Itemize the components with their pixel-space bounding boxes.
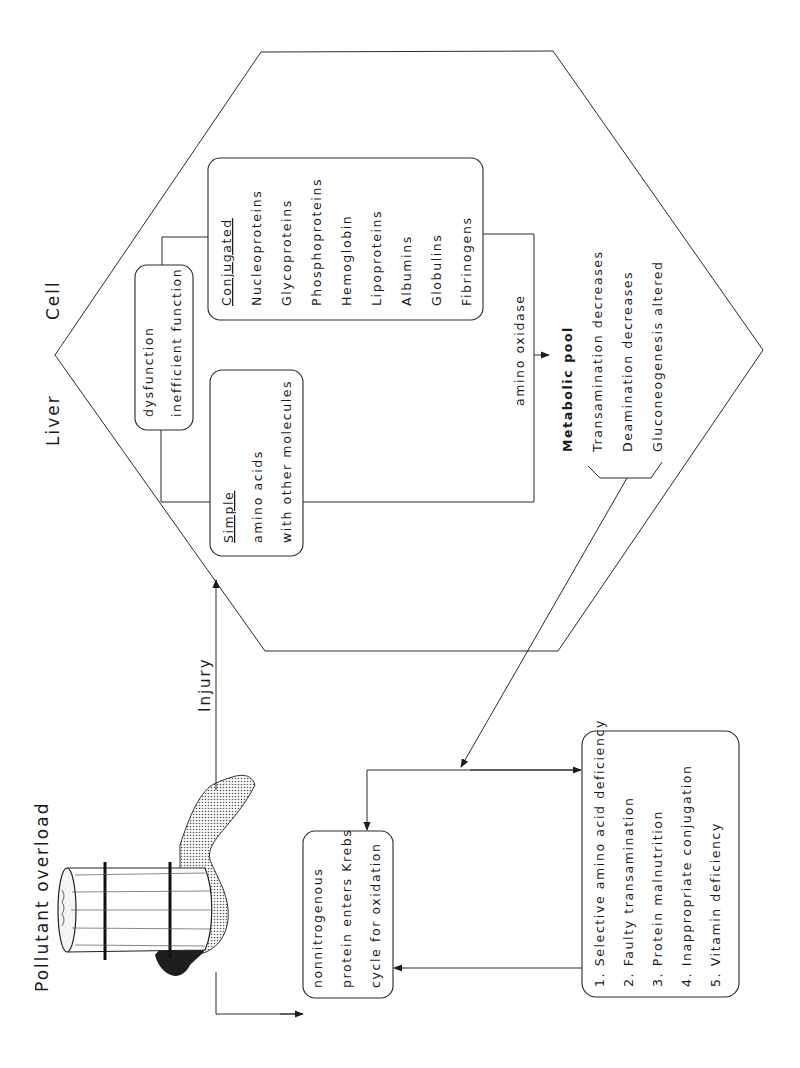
deficiency-item: 1. Selective amino acid deficiency [592,719,607,987]
metabolic-bracket [588,462,662,478]
metabolic-effect: Gluconeogenesis altered [650,260,665,452]
liver-label: Liver [43,394,63,446]
connector-dysfunction-simple [161,430,210,502]
conjugated-box: Conjugated Nucleoproteins Glycoproteins … [208,158,483,320]
conjugated-item: Hemoglobin [339,215,354,306]
deficiency-item: 2. Faulty transamination [621,796,636,987]
barrel-icon [58,775,255,976]
conjugated-item: Glycoproteins [279,199,294,306]
dysfunction-line-2: inefficient function [169,268,184,417]
conjugated-item: Fibrinogens [459,216,474,306]
conjugated-heading: Conjugated [219,218,234,306]
conjugated-item: Phosphoproteins [309,178,324,306]
krebs-box: nonnitrogenous protein enters Krebs cycl… [303,829,393,998]
pollutant-to-krebs-line [216,972,300,1014]
deficiency-list-box: 1. Selective amino acid deficiency 2. Fa… [582,719,739,997]
conjugated-item: Lipoproteins [369,210,384,306]
deficiency-item: 5. Vitamin deficiency [708,822,723,987]
simple-line-1: amino acids [250,450,265,543]
conjugated-item: Globulins [429,234,444,306]
conjugated-item: Albumins [399,235,414,306]
metabolic-effect: Transamination decreases [590,250,605,453]
simple-heading: Simple [221,491,236,543]
pollutant-overload-title: Pollutant overload [32,802,52,992]
deficiency-item: 3. Protein malnutrition [650,810,665,987]
dysfunction-box: dysfunction inefficient function [135,265,193,430]
metabolic-pool: Metabolic pool Transamination decreases … [560,250,665,478]
krebs-line-2: protein enters Krebs [339,829,354,988]
deficiency-item: 4. Inappropriate conjugation [679,765,694,988]
simple-box: Simple amino acids with other molecules [210,370,303,556]
cell-label: Cell [43,280,63,320]
metabolic-pool-heading: Metabolic pool [560,326,575,452]
diagram-canvas: Liver Cell dysfunction inefficient funct… [0,0,800,1068]
injury-label: Injury [196,657,214,712]
dysfunction-line-1: dysfunction [141,326,156,417]
krebs-line-1: nonnitrogenous [310,868,325,988]
krebs-line-3: cycle for oxidation [368,842,383,988]
connector-dysfunction-conjugated [162,237,208,265]
metabolic-effect: Deamination decreases [620,271,635,452]
conjugated-item: Nucleoproteins [249,190,264,306]
amino-oxidase-label: amino oxidase [512,294,527,406]
simple-line-2: with other molecules [279,380,294,543]
